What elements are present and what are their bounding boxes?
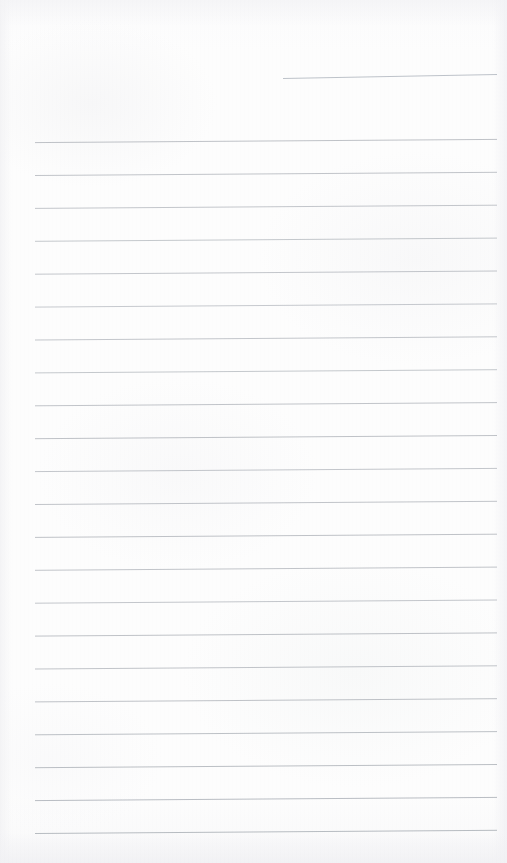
date-rule-line <box>283 75 497 79</box>
header-rule-group <box>283 75 497 79</box>
writing-area[interactable] <box>35 120 497 850</box>
notebook-page <box>0 0 507 863</box>
